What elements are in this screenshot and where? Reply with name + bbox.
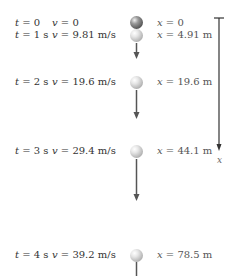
velocity-arrow-1 [134,43,140,59]
arrows-layer [0,0,237,276]
axis-label-x: x [217,154,222,166]
velocity-arrow-3 [134,159,140,201]
velocity-arrow-2 [134,90,140,119]
position-axis [214,18,224,151]
